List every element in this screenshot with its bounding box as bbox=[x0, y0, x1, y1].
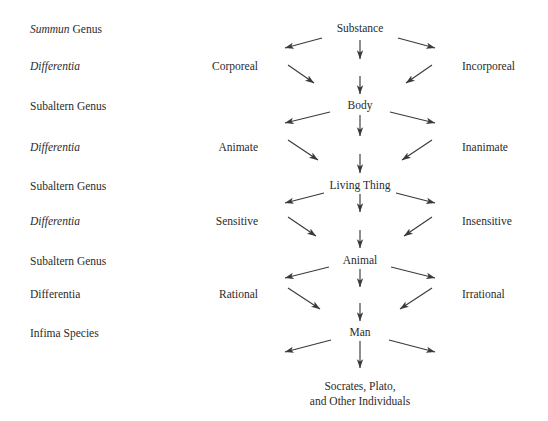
rank-label-summun-genus: Summun Genus bbox=[30, 23, 102, 36]
right-differentia-incorporeal: Incorporeal bbox=[462, 60, 515, 73]
rank-label-differentia-3: Differentia bbox=[30, 215, 80, 228]
arrows-body bbox=[285, 112, 435, 173]
rank-italic-part: Differentia bbox=[30, 141, 80, 153]
porphyrian-tree-diagram: Summun Genus Differentia Subaltern Genus… bbox=[0, 0, 548, 421]
right-differentia-insensitive: Insensitive bbox=[462, 215, 512, 228]
rank-italic-part: Differentia bbox=[30, 215, 80, 227]
node-individuals-line1: Socrates, Plato, bbox=[260, 379, 460, 394]
node-living-thing: Living Thing bbox=[260, 179, 460, 192]
right-differentia-inanimate: Inanimate bbox=[462, 141, 508, 154]
rank-roman-part: Genus bbox=[70, 23, 102, 35]
rank-roman-part: Subaltern Genus bbox=[30, 100, 106, 112]
rank-label-differentia-1: Differentia bbox=[30, 60, 80, 73]
left-differentia-animate: Animate bbox=[218, 141, 258, 154]
arrows-substance bbox=[285, 38, 435, 94]
node-individuals-line2: and Other Individuals bbox=[260, 394, 460, 409]
rank-label-differentia-2: Differentia bbox=[30, 141, 80, 154]
rank-roman-part: Subaltern Genus bbox=[30, 180, 106, 192]
node-animal: Animal bbox=[260, 254, 460, 267]
node-individuals: Socrates, Plato, and Other Individuals bbox=[260, 379, 460, 409]
rank-label-subaltern-genus-2: Subaltern Genus bbox=[30, 180, 106, 193]
rank-italic-part: Differentia bbox=[30, 60, 80, 72]
rank-roman-part: Subaltern Genus bbox=[30, 255, 106, 267]
left-differentia-corporeal: Corporeal bbox=[212, 60, 258, 73]
arrows-animal bbox=[285, 267, 435, 321]
rank-italic-part: Summun bbox=[30, 23, 70, 35]
node-man: Man bbox=[260, 326, 460, 339]
rank-label-subaltern-genus-1: Subaltern Genus bbox=[30, 100, 106, 113]
node-body: Body bbox=[260, 99, 460, 112]
left-differentia-sensitive: Sensitive bbox=[216, 215, 258, 228]
right-differentia-irrational: Irrational bbox=[462, 288, 505, 301]
arrows-man bbox=[285, 340, 435, 368]
rank-label-subaltern-genus-3: Subaltern Genus bbox=[30, 255, 106, 268]
rank-label-infima-species: Infima Species bbox=[30, 327, 99, 340]
rank-roman-part: Infima Species bbox=[30, 327, 99, 339]
left-differentia-rational: Rational bbox=[219, 288, 258, 301]
rank-label-differentia-4: Differentia bbox=[30, 288, 80, 301]
arrows-living-thing bbox=[285, 193, 435, 248]
rank-roman-part: Differentia bbox=[30, 288, 80, 300]
node-substance: Substance bbox=[260, 22, 460, 35]
